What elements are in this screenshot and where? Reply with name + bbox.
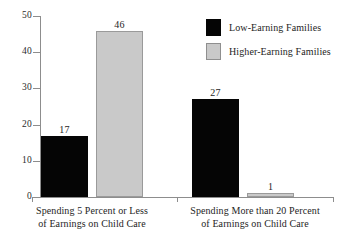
bar-value-label: 27 [210,88,220,98]
bar-value-label: 1 [268,182,273,192]
x-category-label-1: Spending 5 Percent or Less of Earnings o… [24,205,160,230]
legend-item-higher-earning[interactable]: Higher-Earning Families [206,40,338,62]
bar-group2-higher-earning[interactable]: 1 [247,193,294,197]
x-category-label-2: Spending More than 20 Percent of Earning… [175,205,335,230]
x-tick-group-divider [177,197,178,202]
bar-group1-low-earning[interactable]: 17 [41,136,88,198]
x-axis-line [32,197,334,198]
bar-value-label: 46 [114,20,124,30]
x-category-label-1-line2: of Earnings on Child Care [24,218,160,231]
x-category-label-2-line2: of Earnings on Child Care [175,218,335,231]
legend-label-low-earning: Low-Earning Families [229,22,321,33]
legend-swatch-light-icon [206,43,221,60]
bar-group2-low-earning[interactable]: 27 [192,99,239,197]
x-category-label-1-line1: Spending 5 Percent or Less [24,205,160,218]
chart-legend: Low-Earning Families Higher-Earning Fami… [206,16,338,64]
legend-label-higher-earning: Higher-Earning Families [229,46,331,57]
x-tick-right-end [333,197,334,202]
x-tick-left-end [32,197,33,202]
legend-swatch-dark-icon [206,19,221,36]
bar-value-label: 17 [59,125,69,135]
x-category-label-2-line1: Spending More than 20 Percent [175,205,335,218]
bar-chart: 50 40 30 20 10 0 17 46 27 1 Spending 5 P… [0,0,342,247]
legend-item-low-earning[interactable]: Low-Earning Families [206,16,338,38]
bar-group1-higher-earning[interactable]: 46 [96,31,143,198]
